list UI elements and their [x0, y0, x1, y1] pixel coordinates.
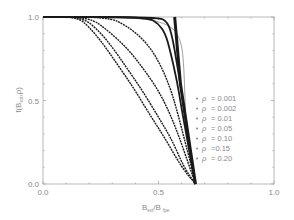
legend-item: ρ=0.15	[196, 144, 230, 153]
legend-marker-icon	[196, 128, 198, 130]
x-tick-label: 1.0	[268, 188, 280, 197]
x-tick-label: 0.0	[37, 188, 49, 197]
y-tick-label: 0.0	[28, 180, 40, 189]
legend-marker-icon	[196, 98, 198, 100]
tick-labels: 0.00.51.00.00.51.0	[28, 13, 280, 197]
legend-item: ρ= 0.10	[196, 134, 232, 143]
legend-symbol: ρ	[201, 94, 207, 103]
legend-symbol: ρ	[201, 144, 207, 153]
legend-symbol: ρ	[201, 104, 207, 113]
curve-series-1	[43, 17, 195, 184]
plot-frame	[43, 17, 274, 184]
curves	[43, 17, 195, 184]
y-axis-label: f(Bext,ρ)	[14, 87, 24, 113]
legend-marker-icon	[196, 148, 198, 150]
x-tick-label: 0.5	[153, 188, 165, 197]
legend-item: ρ= 0.001	[196, 94, 236, 103]
svg-text:Bext/Bfpe: Bext/Bfpe	[142, 203, 170, 213]
legend-value: = 0.001	[211, 94, 236, 103]
legend-marker-icon	[196, 138, 198, 140]
legend-symbol: ρ	[201, 124, 207, 133]
legend-value: = 0.01	[211, 114, 232, 123]
y-tick-label: 0.5	[28, 97, 40, 106]
legend-value: = 0.05	[211, 124, 232, 133]
legend-item: ρ= 0.01	[196, 114, 232, 123]
legend-value: = 0.002	[211, 104, 236, 113]
legend-value: = 0.20	[211, 154, 232, 163]
legend-marker-icon	[196, 108, 198, 110]
legend-item: ρ= 0.05	[196, 124, 232, 133]
legend-item: ρ= 0.002	[196, 104, 236, 113]
legend-value: =0.15	[211, 144, 230, 153]
legend-value: = 0.10	[211, 134, 232, 143]
legend: ρ= 0.001ρ= 0.002ρ= 0.01ρ= 0.05ρ= 0.10ρ=0…	[196, 94, 236, 163]
y-tick-label: 1.0	[28, 13, 40, 22]
legend-symbol: ρ	[201, 114, 207, 123]
axis-ticks	[43, 17, 274, 184]
legend-marker-icon	[196, 118, 198, 120]
svg-text:f(Bext,ρ): f(Bext,ρ)	[14, 87, 24, 113]
x-axis-label: Bext/Bfpe	[142, 203, 170, 213]
legend-symbol: ρ	[201, 134, 207, 143]
chart: 0.00.51.00.00.51.0 f(Bext,ρ) Bext/Bfpe ρ…	[0, 0, 294, 220]
legend-item: ρ= 0.20	[196, 154, 232, 163]
legend-symbol: ρ	[201, 154, 207, 163]
legend-marker-icon	[196, 158, 198, 160]
